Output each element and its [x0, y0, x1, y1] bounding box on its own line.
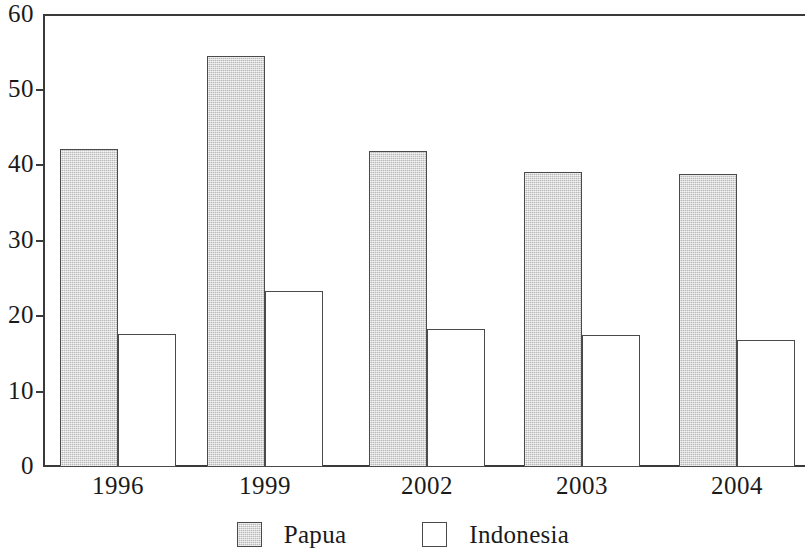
bar-papua-2004 [679, 174, 737, 467]
bar-papua-1996 [60, 149, 118, 467]
legend-item-indonesia: Indonesia [422, 522, 569, 547]
x-axis-labels: 1996 1999 2002 2003 2004 [0, 470, 806, 504]
legend-label-indonesia: Indonesia [469, 522, 569, 547]
x-tick-label-2003: 2003 [522, 470, 642, 502]
chart-legend: Papua Indonesia [0, 512, 806, 557]
bars-layer [0, 0, 806, 467]
x-tick-label-1999: 1999 [205, 470, 325, 502]
bar-indonesia-2002 [427, 329, 485, 467]
legend-swatch-empty-square-icon [422, 522, 447, 547]
bar-indonesia-1996 [118, 334, 176, 467]
bar-indonesia-2004 [737, 340, 795, 467]
bar-indonesia-1999 [265, 291, 323, 467]
x-tick-label-2004: 2004 [677, 470, 797, 502]
bar-papua-1999 [207, 56, 265, 467]
x-tick-label-2002: 2002 [367, 470, 487, 502]
bar-chart: 60 50 40 30 20 10 0 1996 199 [0, 0, 806, 557]
x-tick-label-1996: 1996 [58, 470, 178, 502]
legend-label-papua: Papua [284, 522, 347, 547]
legend-item-papua: Papua [237, 522, 347, 547]
legend-swatch-filled-square-icon [237, 522, 262, 547]
bar-papua-2002 [369, 151, 427, 467]
bar-indonesia-2003 [582, 335, 640, 467]
bar-papua-2003 [524, 172, 582, 467]
